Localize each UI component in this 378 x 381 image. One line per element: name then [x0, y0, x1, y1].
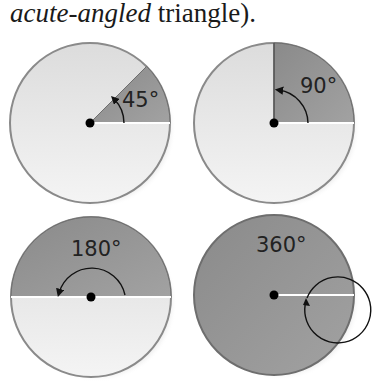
- angle-label-90: 90°: [300, 74, 337, 98]
- angle-diagram-180: 180°: [11, 217, 177, 381]
- angle-diagram-360: 360°: [194, 215, 371, 380]
- angle-diagram-90: 90°: [194, 43, 360, 208]
- angle-label-45: 45°: [122, 88, 159, 112]
- angle-diagrams: 45° 90° 180° 360°: [0, 0, 378, 381]
- angle-label-360: 360°: [256, 233, 307, 257]
- angle-diagram-45: 45°: [10, 43, 176, 208]
- angle-label-180: 180°: [71, 237, 122, 261]
